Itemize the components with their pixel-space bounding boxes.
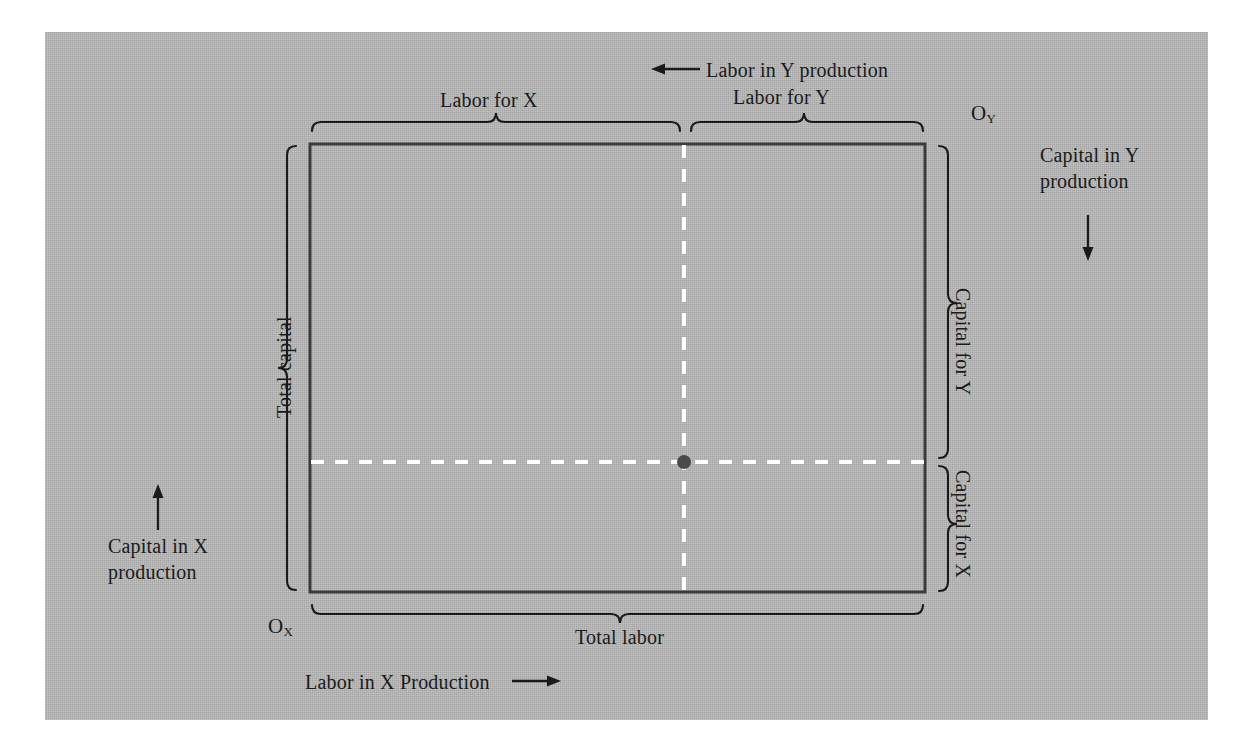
label-total-capital: Total capital — [272, 316, 298, 418]
label-labor-in-x-production: Labor in X Production — [305, 670, 490, 696]
label-total-labor: Total labor — [575, 625, 664, 651]
label-labor-for-x: Labor for X — [440, 88, 538, 114]
label-capital-for-y: Capital for Y — [949, 288, 975, 395]
label-capital-in-x-production: Capital in X production — [108, 533, 223, 586]
origin-x-subscript: X — [283, 624, 292, 639]
figure-panel-background — [45, 32, 1208, 720]
origin-label-y: OY — [971, 100, 996, 127]
origin-x-letter: O — [268, 614, 283, 638]
label-labor-for-y: Labor for Y — [733, 85, 830, 111]
origin-label-x: OX — [268, 613, 293, 640]
label-capital-for-x: Capital for X — [949, 470, 975, 578]
origin-y-subscript: Y — [986, 111, 995, 126]
origin-y-letter: O — [971, 101, 986, 125]
label-labor-in-y-production: Labor in Y production — [706, 58, 888, 84]
figure-canvas: Labor for X Labor in Y production Labor … — [0, 0, 1248, 753]
label-capital-in-y-production: Capital in Y production — [1040, 142, 1158, 195]
